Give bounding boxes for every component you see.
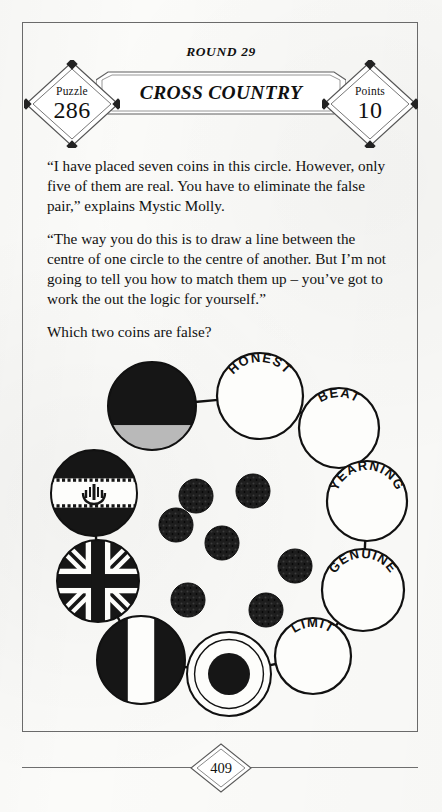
node-vertical-tricolor bbox=[97, 616, 185, 704]
page-number: 409 bbox=[189, 742, 253, 794]
ring-connector bbox=[195, 400, 218, 402]
points-value: 10 bbox=[358, 98, 383, 122]
node-limit: LIMIT bbox=[275, 615, 351, 694]
coin-circle-diagram: HONESTBEATYEARNINGGENUINELIMIT bbox=[36, 338, 406, 708]
node-yearning: YEARNING bbox=[326, 458, 407, 541]
footer-rule-right bbox=[250, 767, 418, 768]
puzzle-number-badge: Puzzle 286 bbox=[24, 60, 120, 148]
puzzle-number: 286 bbox=[53, 98, 90, 122]
node-iran-flag bbox=[51, 450, 137, 536]
center-coins bbox=[159, 474, 312, 627]
node-german-flag bbox=[108, 362, 196, 450]
center-coin bbox=[159, 508, 193, 542]
center-coin bbox=[179, 479, 213, 513]
center-coin bbox=[278, 549, 312, 583]
center-coin bbox=[171, 583, 205, 617]
points-badge: Points 10 bbox=[322, 60, 418, 148]
puzzle-paragraph-2: “The way you do this is to draw a line b… bbox=[47, 229, 395, 310]
puzzle-title: CROSS COUNTRY bbox=[96, 66, 346, 120]
node-roundel bbox=[187, 632, 271, 716]
center-coin bbox=[205, 526, 239, 560]
puzzle-text: “I have placed seven coins in this circl… bbox=[47, 156, 395, 342]
node-beat: BEAT bbox=[299, 385, 379, 468]
round-label: ROUND 29 bbox=[0, 44, 442, 60]
node-genuine: GENUINE bbox=[322, 546, 404, 631]
puzzle-header: ROUND 29 CROSS COUNTRY Puzzle bbox=[0, 44, 442, 140]
footer-rule-left bbox=[22, 767, 192, 768]
center-coin bbox=[236, 474, 270, 508]
page-number-badge: 409 bbox=[189, 742, 253, 794]
puzzle-paragraph-1: “I have placed seven coins in this circl… bbox=[47, 156, 395, 217]
center-coin bbox=[249, 593, 283, 627]
puzzle-page: ROUND 29 CROSS COUNTRY Puzzle bbox=[0, 0, 442, 812]
node-honest: HONEST bbox=[217, 350, 303, 439]
points-caption: Points bbox=[355, 86, 385, 98]
puzzle-caption: Puzzle bbox=[56, 86, 88, 98]
